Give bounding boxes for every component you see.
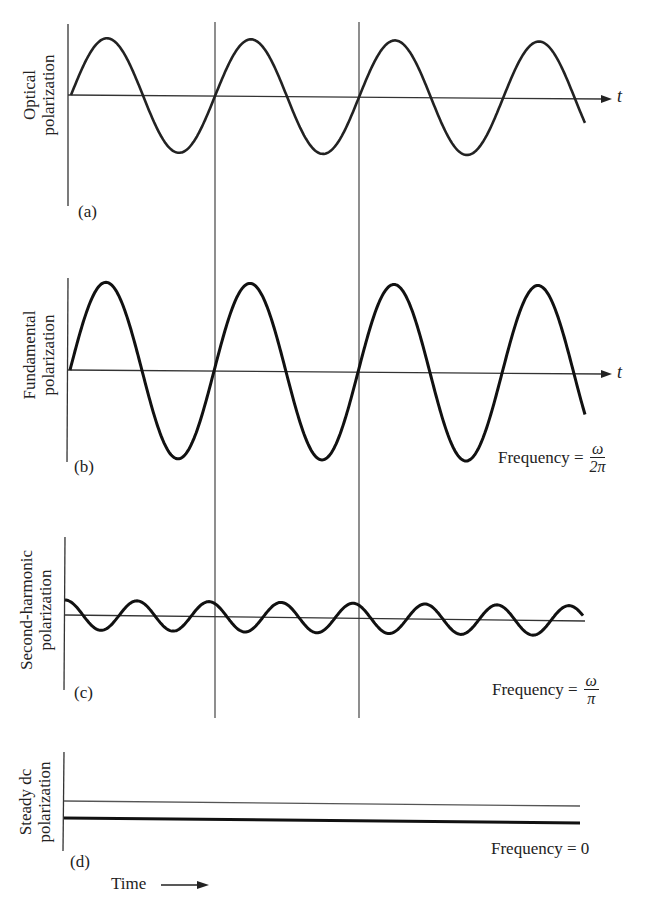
ylabel-c-line1: Second-harmonic [17, 535, 36, 685]
ylabel-a-line1: Optical [20, 25, 39, 165]
x-axis-b [68, 370, 604, 374]
frequency-text-c: Frequency = [492, 680, 578, 700]
x-axis-d [64, 801, 580, 806]
ylabel-b-line1: Fundamental [20, 280, 39, 430]
frequency-text-d: Frequency = 0 [491, 839, 589, 859]
panel-tag-d: (d) [70, 852, 90, 872]
ylabel-c-line2: polarization [36, 535, 55, 685]
y-axis-d [63, 752, 64, 851]
y-axis-b [67, 278, 68, 462]
time-arrow-icon [197, 881, 209, 889]
panel-b [67, 278, 612, 462]
ylabel-c: Second-harmonic polarization [17, 535, 55, 685]
fraction-numerator: ω [584, 672, 599, 690]
x-axis-c [65, 615, 585, 621]
frequency-label-d: Frequency = 0 [491, 839, 589, 859]
fraction-denominator: π [587, 690, 595, 707]
ylabel-d-line1: Steady dc [16, 752, 35, 852]
fraction-denominator: 2π [590, 458, 606, 475]
ylabel-a-line2: polarization [39, 25, 58, 165]
panel-tag-a: (a) [78, 202, 97, 222]
frequency-fraction-b: ω 2π [590, 440, 606, 475]
ylabel-b-line2: polarization [39, 280, 58, 430]
frequency-label-c: Frequency = ω π [492, 672, 599, 707]
x-axis-a [68, 95, 604, 99]
fraction-numerator: ω [590, 440, 605, 458]
t-axis-label-b: t [617, 362, 622, 383]
panel-a [68, 24, 612, 206]
arrowhead-icon [601, 95, 612, 103]
time-label: Time [111, 874, 146, 894]
frequency-fraction-c: ω π [584, 672, 599, 707]
frequency-label-b: Frequency = ω 2π [498, 440, 606, 475]
panel-d [63, 752, 580, 851]
ylabel-d: Steady dc polarization [16, 752, 54, 852]
ylabel-d-line2: polarization [35, 752, 54, 852]
frequency-text-b: Frequency = [498, 448, 584, 468]
panel-tag-c: (c) [74, 683, 93, 703]
dc-level-line [64, 818, 580, 823]
panel-tag-b: (b) [74, 457, 94, 477]
arrowhead-icon [601, 370, 612, 378]
ylabel-a: Optical polarization [20, 25, 58, 165]
y-axis-c [64, 537, 65, 690]
panel-c [64, 537, 585, 690]
ylabel-b: Fundamental polarization [20, 280, 58, 430]
t-axis-label-a: t [617, 86, 622, 107]
